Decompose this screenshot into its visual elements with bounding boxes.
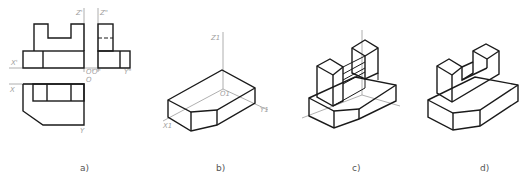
caption-a: a) [80,163,89,173]
label-o-side: O" [92,68,101,76]
label-y1: Y1 [260,106,269,114]
caption-d: d) [480,163,489,173]
label-x1: X1 [162,122,172,130]
technical-drawing-figure: Z' Z" X' O' O" Y" X O Y Z1 O1 X1 Y1 [0,0,528,176]
label-z1: Z1 [210,34,220,42]
caption-c: c) [352,163,360,173]
side-view [98,24,130,68]
label-z-front: Z' [75,9,83,17]
y-axis [362,95,400,106]
label-x-top: X [9,86,15,94]
base-outline [168,70,255,131]
label-o-top: O [86,76,92,84]
label-x-front: X' [10,59,18,67]
label-z-side: Z" [99,9,108,17]
caption-b: b) [216,163,225,173]
panel-c-isometric-construction [302,30,400,128]
top-view [23,84,84,125]
label-y-top: Y [80,127,85,135]
front-view [23,24,84,68]
panel-d-isometric-final [428,44,518,130]
panel-b-isometric-base: Z1 O1 X1 Y1 [162,32,269,131]
label-o1: O1 [220,90,230,98]
panel-a-orthographic-views: Z' Z" X' O' O" Y" X O Y [9,8,132,135]
x1-axis [163,89,223,121]
label-y-side: Y" [124,68,132,76]
